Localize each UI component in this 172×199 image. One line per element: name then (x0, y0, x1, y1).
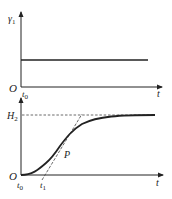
bottom-origin-label: O (9, 170, 17, 182)
bottom-t0-label: t0 (17, 180, 24, 192)
bottom-t1-label: t1 (40, 180, 47, 192)
top-t0-label: t0 (22, 89, 29, 101)
h2-label: H2 (6, 110, 18, 123)
tangent-line (42, 114, 82, 180)
top-plot: γ1 O t0 t (8, 12, 162, 101)
figure-canvas: γ1 O t0 t H2 P O t0 t1 t (0, 0, 172, 199)
top-origin-label: O (9, 82, 17, 94)
bottom-x-label: t (156, 177, 159, 188)
top-y-label: γ1 (8, 13, 16, 26)
bottom-plot: H2 P O t0 t1 t (6, 98, 163, 192)
inflection-point-label: P (63, 149, 70, 160)
top-x-label: t (157, 88, 160, 99)
response-curve (21, 115, 155, 175)
